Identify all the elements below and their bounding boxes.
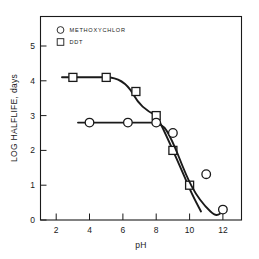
legend-label-methoxychlor: METHOXYCHLOR <box>70 27 126 33</box>
methoxychlor-markers <box>85 118 227 214</box>
methoxychlor-point-ph9 <box>169 129 178 138</box>
plot-frame <box>41 17 242 221</box>
x-tick-label-6: 6 <box>121 225 126 235</box>
x-tick-label-10: 10 <box>185 225 195 235</box>
x-axis-title: pH <box>135 240 146 250</box>
ddt-point-ph5 <box>102 73 110 81</box>
methoxychlor-point-ph11 <box>202 170 211 179</box>
plot-area: 0 1 2 3 4 5 2 4 6 8 10 12 pH LOG HALFLIF… <box>0 0 259 259</box>
y-axis-ticks <box>41 46 47 220</box>
x-tick-label-8: 8 <box>154 225 159 235</box>
x-tick-label-2: 2 <box>54 225 59 235</box>
y-tick-label-3: 3 <box>30 111 35 121</box>
methoxychlor-point-ph8 <box>152 118 161 127</box>
y-tick-label-0: 0 <box>30 215 35 225</box>
y-tick-label-2: 2 <box>30 145 35 155</box>
chart-figure: 0 1 2 3 4 5 2 4 6 8 10 12 pH LOG HALFLIF… <box>0 0 259 259</box>
methoxychlor-point-ph12 <box>219 205 228 214</box>
y-tick-label-4: 4 <box>30 76 35 86</box>
x-axis-ticks <box>56 214 223 221</box>
circle-open-icon <box>57 27 64 34</box>
methoxychlor-point-ph4 <box>85 118 94 127</box>
ddt-curve <box>62 77 201 211</box>
legend: METHOXYCHLOR DDT <box>57 27 126 46</box>
y-tick-label-1: 1 <box>30 180 35 190</box>
ddt-point-ph7 <box>132 88 140 96</box>
x-tick-label-4: 4 <box>87 225 92 235</box>
y-tick-label-5: 5 <box>30 41 35 51</box>
x-tick-label-12: 12 <box>218 225 228 235</box>
ddt-point-ph3 <box>69 73 77 81</box>
y-axis-title: LOG HALFLIFE, days <box>9 74 19 162</box>
square-open-icon <box>57 39 64 46</box>
methoxychlor-point-ph6-3 <box>124 118 133 127</box>
methoxychlor-curve <box>78 123 223 215</box>
legend-label-ddt: DDT <box>70 39 84 45</box>
